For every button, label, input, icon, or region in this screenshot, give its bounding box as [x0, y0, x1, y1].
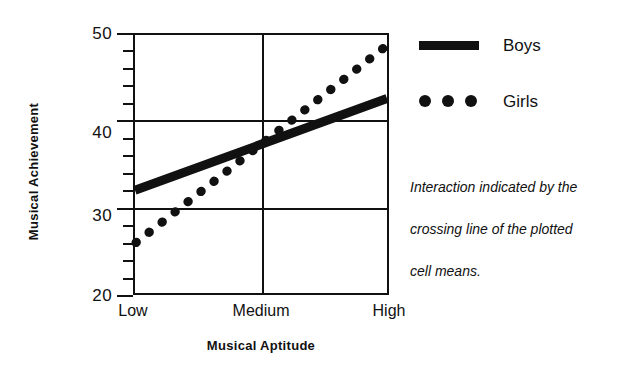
y-tick-minor [123, 173, 133, 175]
legend-dot [465, 95, 477, 107]
y-tick-major-20 [117, 295, 133, 297]
y-axis-tick-labels: 50 40 30 20 [56, 0, 112, 387]
annotation-line-2: crossing line of the plotted [410, 222, 625, 236]
y-tick-minor [123, 68, 133, 70]
annotation-line-3: cell means. [410, 264, 625, 278]
legend-label-boys: Boys [503, 37, 541, 54]
y-tick-minor [123, 278, 133, 280]
y-tick-minor [123, 85, 133, 87]
y-tick-major-50 [117, 33, 133, 35]
y-axis-tick-label-50: 50 [66, 25, 112, 42]
y-tick-minor [123, 50, 133, 52]
y-tick-minor [123, 103, 133, 105]
dotted-line-key-icon [419, 94, 485, 108]
y-tick-minor [123, 190, 133, 192]
y-tick-major-30 [117, 208, 133, 210]
x-axis-tick-label-medium: Medium [206, 302, 316, 320]
solid-line-key-icon [419, 38, 485, 52]
y-tick-minor [123, 260, 133, 262]
chart-figure: 50 40 30 20 Low [0, 0, 630, 387]
x-axis-title: Musical Aptitude [133, 338, 389, 353]
x-axis-tick-label-low: Low [78, 302, 188, 320]
legend-dot [442, 95, 454, 107]
y-tick-minor [123, 155, 133, 157]
y-tick-minor [123, 243, 133, 245]
legend-label-girls: Girls [503, 93, 538, 110]
series-line-girls [136, 46, 386, 243]
y-tick-minor [123, 225, 133, 227]
annotation-line-1: Interaction indicated by the [410, 180, 625, 194]
legend-solid-bar [419, 41, 479, 50]
legend-dot [419, 95, 431, 107]
x-axis-tick-label-high: High [334, 302, 444, 320]
y-tick-major-40 [117, 120, 133, 122]
series-layer [133, 33, 389, 295]
legend-item-girls: Girls [419, 84, 619, 118]
y-tick-minor [123, 138, 133, 140]
chart-legend: Boys Girls [419, 28, 619, 118]
y-axis-tick-label-40: 40 [66, 124, 112, 141]
y-axis-title: Musical Achievement [26, 77, 41, 267]
chart-annotation: Interaction indicated by the crossing li… [410, 180, 625, 278]
y-axis-tick-label-30: 30 [66, 207, 112, 224]
legend-item-boys: Boys [419, 28, 619, 62]
